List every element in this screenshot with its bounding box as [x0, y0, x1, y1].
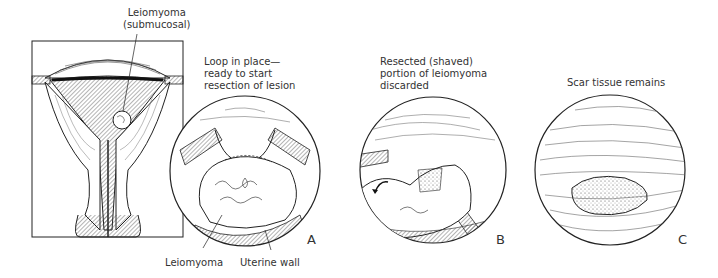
illustration-canvas — [0, 0, 718, 278]
uterus-diagram — [32, 34, 183, 237]
panel-c-caption: Scar tissue remains — [567, 77, 665, 89]
panel-a-uterine-wall-label: Uterine wall — [240, 257, 300, 269]
panel-a-leiomyoma-label: Leiomyoma — [165, 257, 223, 269]
panel-a-letter: A — [307, 232, 316, 247]
panel-b-view — [355, 97, 506, 245]
panel-b-caption: Resected (shaved) portion of leiomyoma d… — [380, 56, 487, 92]
panel-a-caption: Loop in place— ready to start resection … — [204, 56, 295, 92]
panel-c-view — [535, 95, 688, 245]
panel-c-letter: C — [678, 232, 687, 247]
leiomyoma-submucosal-label: Leiomyoma (submucosal) — [123, 7, 191, 31]
leiomyoma-submucosal-shape — [113, 111, 131, 129]
panel-b-letter: B — [496, 232, 505, 247]
panel-a-view — [170, 96, 320, 250]
